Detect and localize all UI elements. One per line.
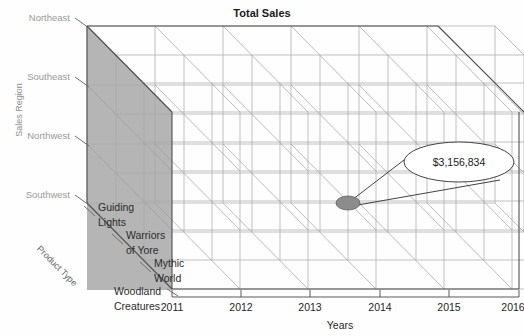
axis-title-years: Years [327,319,353,331]
total-sales-3d-chart: Total Sales Northeast Southeast Northwes… [0,0,524,336]
region-tick-label-southwest: Southwest [26,189,71,200]
year-tick-label-2011: 2011 [161,301,184,313]
region-tick-label-northeast: Northeast [29,12,71,23]
year-tick-label-2016: 2016 [501,301,524,313]
axis-title-sales-region: Sales Region [14,83,24,137]
product-tick-line1: Mythic [154,257,184,269]
product-tick-line2: of Yore [126,244,159,256]
product-tick-line2: Lights [98,216,126,228]
year-tick-label-2015: 2015 [437,301,461,313]
year-tick-label-2014: 2014 [368,301,392,313]
product-tick-line2: Creatures [114,300,160,312]
region-tick-label-northwest: Northwest [27,130,70,141]
product-tick-line1: Guiding [98,201,134,213]
year-tick-label-2012: 2012 [229,301,253,313]
chart-title: Total Sales [233,7,290,19]
region-tick-label-southeast: Southeast [27,71,70,82]
data-point-marker[interactable] [336,196,360,210]
product-tick-line2: World [154,272,181,284]
product-tick-line1: Warriors [126,229,165,241]
product-tick-line1: Woodland [114,285,161,297]
chart-container: Total Sales Northeast Southeast Northwes… [0,0,524,336]
callout-value-label: $3,156,834 [433,156,486,168]
year-tick-label-2013: 2013 [298,301,322,313]
